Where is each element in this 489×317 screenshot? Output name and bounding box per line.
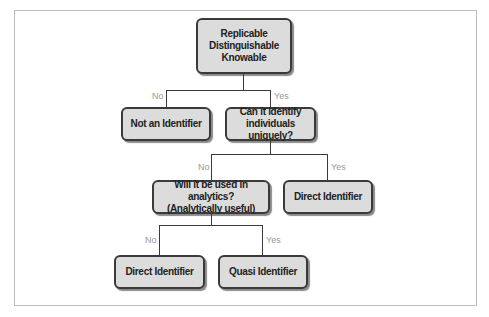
- direct-identifier-node: Direct Identifier: [283, 180, 373, 214]
- root-line-2: Distinguishable: [209, 40, 279, 52]
- root-line-1: Replicable: [209, 28, 279, 40]
- branch-no-label: No: [152, 91, 164, 101]
- connector: [166, 90, 167, 107]
- direct-identifier-label: Direct Identifier: [294, 191, 362, 203]
- branch-yes-label: Yes: [266, 235, 281, 245]
- connector: [166, 90, 270, 91]
- connector: [270, 90, 271, 107]
- quasi-identifier-label: Quasi Identifier: [229, 266, 297, 278]
- branch-yes-label: Yes: [331, 162, 346, 172]
- identify-line-2: individuals uniquely?: [227, 118, 314, 142]
- branch-no-label: No: [198, 162, 210, 172]
- direct-identifier-node: Direct Identifier: [114, 255, 205, 289]
- connector: [262, 225, 263, 255]
- branch-yes-label: Yes: [274, 91, 289, 101]
- analytics-line-1: Will it be used in analytics?: [154, 179, 268, 203]
- connector: [211, 154, 328, 155]
- branch-no-label: No: [145, 235, 157, 245]
- root-line-3: Knowable: [209, 52, 279, 64]
- connector: [159, 225, 160, 255]
- connector: [327, 154, 328, 180]
- identify-uniquely-node: Can it identify individuals uniquely?: [225, 107, 316, 141]
- connector: [270, 141, 271, 155]
- quasi-identifier-node: Quasi Identifier: [218, 255, 308, 289]
- root-node: Replicable Distinguishable Knowable: [196, 18, 292, 74]
- connector: [243, 74, 244, 91]
- not-identifier-node: Not an Identifier: [121, 107, 211, 141]
- not-identifier-label: Not an Identifier: [130, 118, 201, 130]
- direct-identifier-label: Direct Identifier: [125, 266, 193, 278]
- connector: [159, 225, 263, 226]
- analytics-node: Will it be used in analytics? (Analytica…: [152, 180, 270, 214]
- identify-line-1: Can it identify: [227, 106, 314, 118]
- connector: [211, 154, 212, 180]
